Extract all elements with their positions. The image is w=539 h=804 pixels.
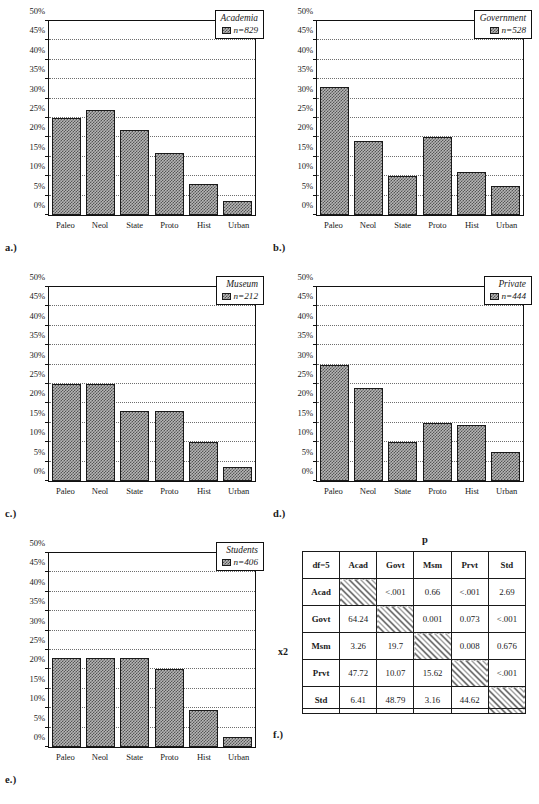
bar-series	[317, 21, 523, 215]
x-axis-labels-c: PaleoNeolStateProtoHistUrban	[48, 486, 256, 496]
y-axis-tick-label: 20%	[30, 388, 45, 398]
panel-label-c: c.)	[5, 508, 16, 519]
legend-swatch-icon	[490, 293, 499, 300]
legend-a: Academia n=829	[215, 10, 265, 39]
chi-square-p-value-table: df=5AcadGovtMsmPrvtStdAcad<.0010.66<.001…	[302, 551, 526, 714]
bar-urban	[223, 201, 252, 215]
y-axis-tick-label: 25%	[30, 369, 45, 379]
bar-proto	[155, 153, 184, 215]
y-axis-tick-label: 0%	[34, 466, 45, 476]
panel-label-d: d.)	[273, 508, 286, 519]
bar-slot	[320, 21, 349, 215]
bar-slot	[491, 287, 520, 481]
bar-slot	[86, 287, 115, 481]
y-axis-tick-label: 35%	[30, 596, 45, 606]
y-axis-tick-label: 0%	[34, 200, 45, 210]
table-cell-diagonal	[414, 633, 451, 660]
bar-neol	[354, 388, 383, 481]
x-axis-label-proto: Proto	[155, 486, 185, 496]
table-cell: <.001	[488, 660, 525, 687]
y-axis-tick-label: 5%	[34, 181, 45, 191]
bar-series	[49, 287, 255, 481]
table-row: Govt64.240.0010.073<.001	[303, 606, 526, 633]
panel-label-b: b.)	[273, 242, 286, 253]
bar-slot	[189, 287, 218, 481]
x-axis-label-urban: Urban	[224, 752, 254, 762]
bar-slot	[388, 21, 417, 215]
bar-slot	[189, 553, 218, 747]
bar-neol	[86, 384, 115, 481]
y-axis-tick-label: 30%	[30, 616, 45, 626]
table-cell: <.001	[488, 606, 525, 633]
bar-paleo	[52, 658, 81, 747]
bar-slot	[52, 553, 81, 747]
table-column-header: df=5	[303, 552, 340, 579]
bar-urban	[223, 737, 252, 747]
bar-proto	[155, 669, 184, 747]
bar-slot	[52, 287, 81, 481]
x-axis-label-paleo: Paleo	[51, 752, 81, 762]
bar-paleo	[320, 87, 349, 215]
x-axis-label-urban: Urban	[224, 220, 254, 230]
y-axis-tick-label: 25%	[298, 369, 313, 379]
x-axis-label-neol: Neol	[85, 752, 115, 762]
x-axis-label-neol: Neol	[353, 220, 383, 230]
table-cell-diagonal	[488, 687, 525, 714]
y-axis-tick-label: 10%	[30, 161, 45, 171]
table-cell: 15.62	[414, 660, 451, 687]
bar-state	[388, 442, 417, 481]
bar-slot	[120, 553, 149, 747]
legend-swatch-icon	[222, 293, 231, 300]
chart-students: 0%5%10%15%20%25%30%35%40%45%50% PaleoNeo…	[2, 538, 268, 770]
y-axis-tick-label: 35%	[30, 330, 45, 340]
plot-area-a: 0%5%10%15%20%25%30%35%40%45%50%	[48, 20, 256, 216]
x-axis-label-proto: Proto	[423, 220, 453, 230]
y-axis-tick-label: 30%	[298, 84, 313, 94]
y-axis-tick-label: 10%	[298, 427, 313, 437]
bar-slot	[120, 287, 149, 481]
bar-paleo	[52, 384, 81, 481]
legend-e: Students n=406	[216, 542, 264, 571]
bar-slot	[120, 21, 149, 215]
y-axis-tick-label: 0%	[302, 466, 313, 476]
y-axis-tick-label: 40%	[298, 45, 313, 55]
x-axis-labels-e: PaleoNeolStateProtoHistUrban	[48, 752, 256, 762]
y-axis-tick-label: 20%	[298, 122, 313, 132]
bar-hist	[457, 172, 486, 215]
panel-f: p x2 df=5AcadGovtMsmPrvtStdAcad<.0010.66…	[270, 534, 536, 800]
table-row: Msm3.2619.70.0080.676	[303, 633, 526, 660]
y-axis-tick-label: 15%	[30, 142, 45, 152]
x-axis-label-neol: Neol	[353, 486, 383, 496]
bar-hist	[189, 442, 218, 481]
y-axis-tick-label: 25%	[30, 635, 45, 645]
bar-slot	[155, 553, 184, 747]
panel-label-f: f.)	[273, 729, 283, 740]
bar-state	[120, 658, 149, 747]
y-axis-tick-label: 35%	[298, 330, 313, 340]
x-axis-label-hist: Hist	[189, 220, 219, 230]
x-axis-labels-d: PaleoNeolStateProtoHistUrban	[316, 486, 524, 496]
bar-paleo	[52, 118, 81, 215]
panel-d: 0%5%10%15%20%25%30%35%40%45%50% PaleoNeo…	[270, 272, 536, 527]
table-row: Prvt47.7210.0715.62<.001	[303, 660, 526, 687]
table-cell: 47.72	[340, 660, 377, 687]
bar-proto	[423, 137, 452, 215]
figure-grid: 0%5%10%15%20%25%30%35%40%45%50% PaleoNeo…	[0, 0, 539, 804]
legend-entry-b: n=528	[480, 25, 526, 36]
y-axis-tick-label: 50%	[30, 6, 45, 16]
legend-title-b: Government	[480, 13, 526, 24]
bar-slot	[320, 287, 349, 481]
y-axis-tick-label: 50%	[30, 538, 45, 548]
y-axis-tick-label: 25%	[298, 103, 313, 113]
legend-c: Museum n=212	[216, 276, 264, 305]
bar-hist	[189, 184, 218, 215]
bar-proto	[155, 411, 184, 481]
x-axis-label-state: State	[120, 486, 150, 496]
bar-slot	[223, 21, 252, 215]
chart-government: 0%5%10%15%20%25%30%35%40%45%50% PaleoNeo…	[270, 6, 536, 238]
bar-slot	[86, 21, 115, 215]
x-axis-label-paleo: Paleo	[319, 486, 349, 496]
chart-academia: 0%5%10%15%20%25%30%35%40%45%50% PaleoNeo…	[2, 6, 268, 238]
y-axis-tick-label: 45%	[298, 25, 313, 35]
legend-entry-c: n=212	[222, 291, 258, 302]
